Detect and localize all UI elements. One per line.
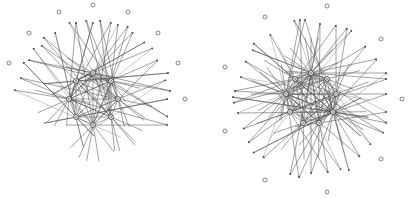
outer-node <box>126 10 130 14</box>
inner-node-core <box>335 93 337 95</box>
inner-node-core <box>302 122 304 124</box>
outer-node <box>223 65 227 69</box>
left-network-diagram <box>7 3 187 161</box>
outer-node <box>379 157 383 161</box>
inner-node-core <box>110 80 112 82</box>
right-outer-nodes <box>223 4 404 194</box>
outer-node <box>325 190 329 194</box>
outer-node <box>223 129 227 133</box>
directed-edge <box>270 34 292 115</box>
directed-edge <box>319 23 320 158</box>
directed-edge <box>28 60 140 88</box>
diagram-svg <box>0 0 408 198</box>
outer-node <box>325 4 329 8</box>
outer-node <box>379 37 383 41</box>
right-edges <box>232 19 387 178</box>
outer-node <box>7 61 11 65</box>
inner-node-core <box>92 72 94 74</box>
inner-node-core <box>294 78 296 80</box>
directed-edge <box>312 56 371 145</box>
outer-node <box>176 61 180 65</box>
outer-node <box>263 178 267 182</box>
outer-node <box>263 15 267 19</box>
inner-node-core <box>285 93 287 95</box>
inner-node-core <box>68 98 70 100</box>
directed-edge <box>66 67 171 91</box>
inner-node-core <box>310 72 312 74</box>
inner-node-core <box>318 122 320 124</box>
outer-node <box>27 31 31 35</box>
left-outer-nodes <box>7 3 187 101</box>
inner-node-core <box>92 124 94 126</box>
network-diagrams-canvas <box>0 0 408 198</box>
inner-node-core <box>326 78 328 80</box>
directed-edge <box>234 91 304 95</box>
inner-node-core <box>332 111 334 113</box>
inner-node-core <box>110 116 112 118</box>
outer-node <box>183 97 187 101</box>
inner-node-core <box>75 80 77 82</box>
outer-node <box>400 97 404 101</box>
inner-node-core <box>117 98 119 100</box>
outer-node <box>57 10 61 14</box>
directed-edge <box>96 48 153 93</box>
outer-node <box>91 3 95 7</box>
left-edges <box>14 20 171 161</box>
right-network-diagram <box>223 4 404 194</box>
directed-edge <box>14 90 88 102</box>
outer-node <box>156 31 160 35</box>
directed-edge <box>91 68 168 117</box>
inner-node-core <box>75 116 77 118</box>
inner-node-core <box>289 111 291 113</box>
directed-edge <box>298 28 347 89</box>
